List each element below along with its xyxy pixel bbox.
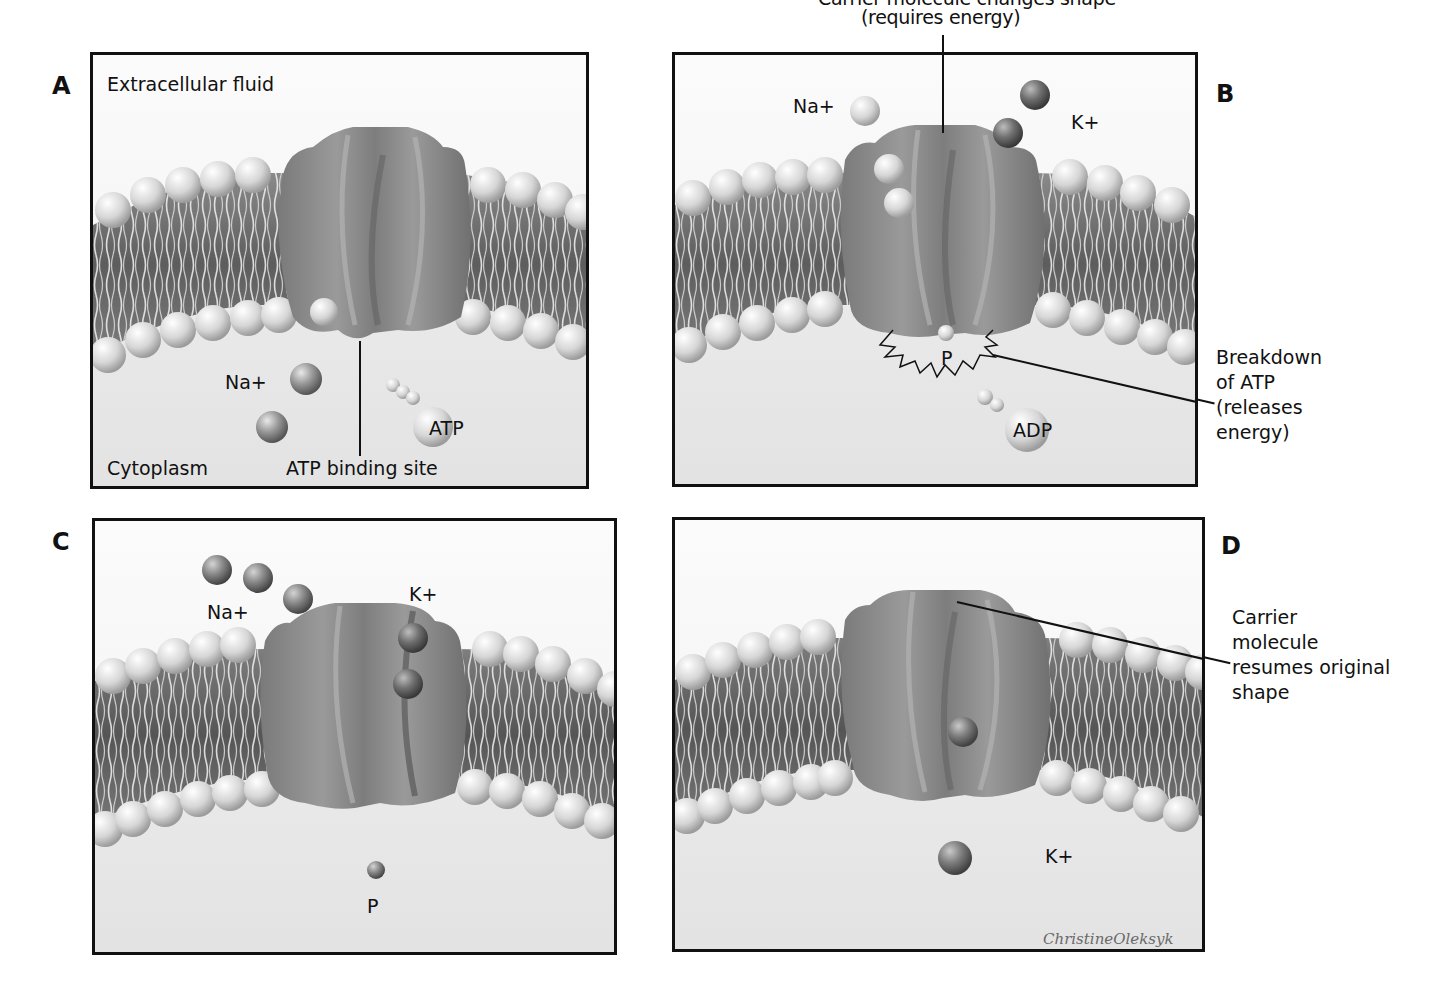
callout-line-1: Carrier	[1232, 605, 1390, 630]
membrane-diagram-b	[675, 55, 1198, 487]
na-label-c: Na+	[207, 601, 249, 623]
panel-letter-d: D	[1221, 532, 1241, 560]
k-label-d: K+	[1045, 845, 1073, 867]
membrane-diagram-c	[95, 521, 617, 955]
panel-letter-a: A	[52, 72, 71, 100]
callout-line-1: Breakdown	[1216, 345, 1322, 370]
callout-line-4: energy)	[1216, 420, 1322, 445]
extracellular-fluid-label: Extracellular fluid	[107, 73, 274, 95]
na-label-b: Na+	[793, 95, 835, 117]
k-label-c: K+	[409, 583, 437, 605]
na-label-a: Na+	[225, 371, 267, 393]
membrane-diagram-d	[675, 520, 1205, 952]
p-label-b: P	[941, 347, 952, 369]
panel-b: Na+ K+ P ADP	[672, 52, 1198, 487]
carrier-callout: Carrier molecule resumes original shape	[1232, 605, 1390, 705]
adp-label: ADP	[1013, 419, 1052, 441]
panel-a: Extracellular fluid Na+ ATP Cytoplasm AT…	[90, 52, 589, 489]
top-caption-leader	[942, 35, 944, 133]
atp-label: ATP	[429, 417, 464, 439]
k-label-b: K+	[1071, 111, 1099, 133]
panel-c: Na+ K+ P	[92, 518, 617, 955]
callout-line-3: (releases	[1216, 395, 1322, 420]
artist-signature: ChristineOleksyk	[1043, 930, 1174, 948]
callout-line-3: resumes original	[1232, 655, 1390, 680]
cytoplasm-label: Cytoplasm	[107, 457, 208, 479]
atp-binding-site-label: ATP binding site	[286, 457, 438, 479]
panel-letter-b: B	[1216, 80, 1234, 108]
carrier-leader-ext	[1203, 656, 1231, 664]
p-label-c: P	[367, 895, 378, 917]
panel-letter-c: C	[52, 528, 70, 556]
panel-d: K+ ChristineOleksyk	[672, 517, 1205, 952]
membrane-diagram-a	[93, 55, 589, 489]
top-caption: (requires energy)	[861, 5, 1020, 29]
callout-line-2: of ATP	[1216, 370, 1322, 395]
breakdown-callout: Breakdown of ATP (releases energy)	[1216, 345, 1322, 445]
callout-line-2: molecule	[1232, 630, 1390, 655]
callout-line-4: shape	[1232, 680, 1390, 705]
